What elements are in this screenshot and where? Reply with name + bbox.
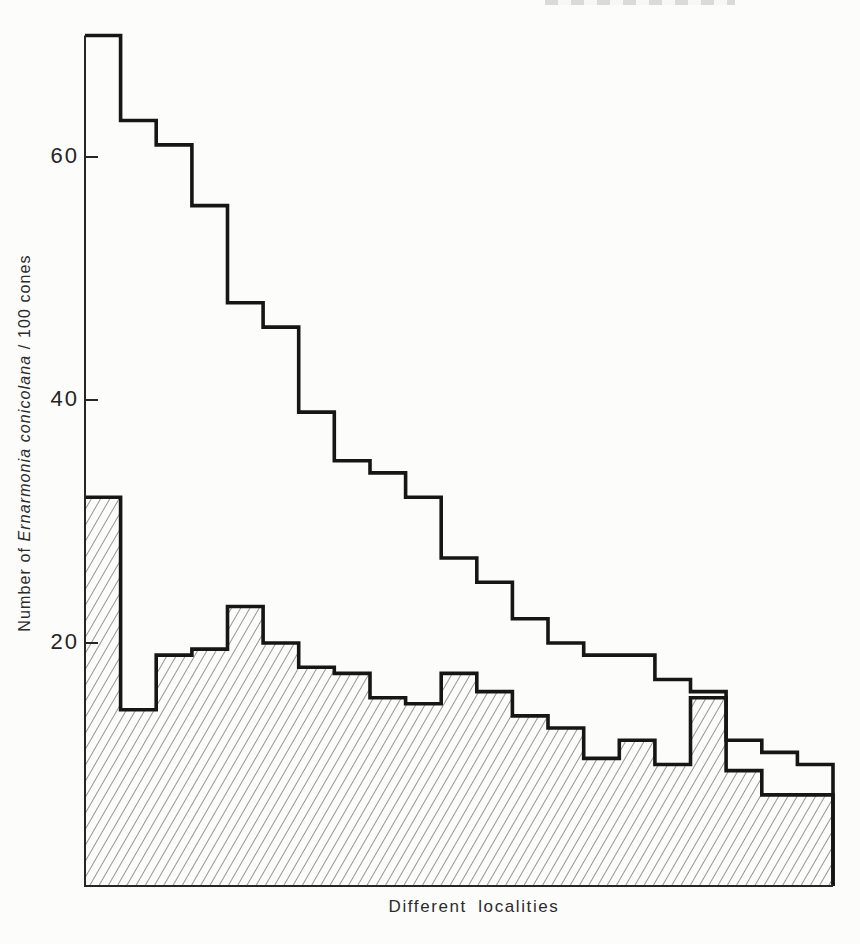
y-tick-label-20: 20 [51,629,79,655]
y-tick-label-60: 60 [51,143,79,169]
page-edge-scan-artifact [545,0,735,5]
scanned-step-chart-figure: Number of Ernarmonia conicolana / 100 co… [0,0,860,944]
y-axis-title-prefix: Number of [16,541,33,631]
y-axis-title-suffix: / 100 cones [16,254,33,354]
y-tick-label-40: 40 [51,386,79,412]
x-axis-title: Different localities [389,897,560,917]
y-axis-title: Number of Ernarmonia conicolana / 100 co… [16,254,34,631]
step-chart-canvas [0,0,860,944]
y-axis-title-species-italic: Ernarmonia conicolana [16,355,33,542]
